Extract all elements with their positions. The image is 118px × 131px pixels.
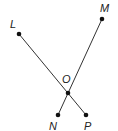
point-N xyxy=(56,113,61,118)
point-M xyxy=(100,17,105,22)
segment-MN xyxy=(58,19,102,115)
label-O: O xyxy=(62,73,71,85)
point-O xyxy=(66,91,71,96)
segment-LP xyxy=(19,34,86,115)
point-L xyxy=(17,32,22,37)
label-N: N xyxy=(49,120,57,131)
label-L: L xyxy=(10,18,16,30)
point-P xyxy=(84,113,89,118)
geometry-diagram: L M O N P xyxy=(0,0,118,131)
label-M: M xyxy=(100,2,110,14)
label-P: P xyxy=(84,120,92,131)
